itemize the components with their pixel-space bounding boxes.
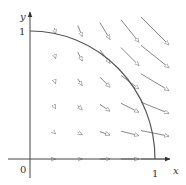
field-arrow [141, 74, 169, 91]
field-arrow [121, 48, 139, 66]
field-arrow [54, 133, 55, 134]
field-arrow [121, 20, 139, 42]
field-arrow [141, 17, 169, 45]
field-arrow [100, 132, 110, 135]
field-arrow [78, 79, 82, 86]
field-arrow [100, 77, 110, 87]
field-arrow [78, 106, 82, 110]
field-arrow [100, 23, 110, 40]
field-arrow [141, 131, 169, 137]
field-arrow [54, 81, 55, 84]
field-arrow [121, 103, 139, 112]
vector-field-diagram: y x 0 1 1 [0, 0, 186, 185]
field-arrow [121, 131, 139, 135]
field-arrow [54, 107, 55, 109]
y-tick-label: 1 [19, 26, 25, 37]
field-arrow [141, 45, 169, 67]
x-tick-label: 1 [152, 168, 158, 179]
y-axis-label: y [19, 11, 26, 22]
field-arrow [54, 54, 55, 58]
field-arrow [78, 52, 82, 61]
field-arrow [78, 25, 82, 36]
field-arrow [100, 104, 110, 111]
origin-label: 0 [20, 164, 26, 175]
x-axis-label: x [173, 165, 179, 176]
field-arrow [78, 132, 82, 134]
quarter-circle-curve [30, 31, 155, 159]
